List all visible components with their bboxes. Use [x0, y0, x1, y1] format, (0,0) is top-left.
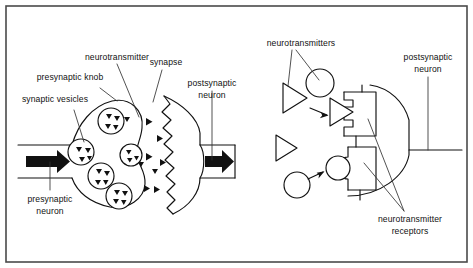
label-synaptic-vesicles: synaptic vesicles	[22, 94, 88, 104]
label-postsynaptic-neuron-line2: neuron	[198, 90, 225, 100]
left-panel-group: neurotransmitter presynaptic knob synapt…	[18, 52, 237, 216]
free-circle-neurotransmitter	[284, 172, 310, 198]
label-neurotransmitter: neurotransmitter	[85, 52, 149, 62]
leader-synaptic-vesicles	[74, 110, 84, 142]
synaptic-transmission-figure: neurotransmitter presynaptic knob synapt…	[0, 0, 473, 268]
postsynaptic-impulse-arrow	[205, 150, 234, 173]
leader-presynaptic-knob	[100, 88, 117, 101]
figure-canvas: neurotransmitter presynaptic knob synapt…	[0, 0, 473, 268]
right-panel-group: neurotransmitters postsynaptic neuron ne…	[267, 38, 462, 236]
synaptic-vesicle	[88, 163, 114, 189]
leader-receptors-upper	[368, 119, 404, 211]
bound-circle-neurotransmitter	[326, 156, 350, 180]
postsynaptic-neck	[200, 145, 204, 178]
leader-synapse	[153, 70, 162, 102]
synaptic-vesicle	[68, 139, 94, 165]
synaptic-vesicle	[98, 108, 124, 134]
leader-receptors-lower	[364, 163, 404, 211]
synaptic-vesicle	[106, 183, 132, 209]
leader-neurotransmitters-circle	[296, 50, 319, 80]
binding-arrow	[308, 171, 325, 179]
leader-neurotransmitters-triangle	[288, 50, 292, 86]
leader-neurotransmitter	[117, 64, 139, 117]
label-neurotransmitters: neurotransmitters	[267, 38, 336, 48]
label-presynaptic-neuron-line2: neuron	[36, 206, 63, 216]
postsynaptic-membrane-upper	[370, 85, 462, 150]
label-synapse: synapse	[150, 57, 183, 67]
label-postsynaptic-neuron-line1: postsynaptic	[188, 78, 238, 88]
receptor-site-circle-body	[348, 147, 376, 190]
label-postsynaptic-neuron-right-line2: neuron	[414, 64, 441, 74]
synaptic-cleft-membrane	[162, 96, 175, 214]
free-triangle-neurotransmitter	[276, 135, 297, 161]
label-postsynaptic-neuron-right-line1: postsynaptic	[404, 52, 454, 62]
label-neurotransmitter-receptors-line2: receptors	[392, 226, 429, 236]
bound-triangle-neurotransmitter	[330, 98, 353, 126]
postsynaptic-bulb-bottom	[173, 178, 235, 214]
free-triangle-neurotransmitter	[283, 83, 307, 113]
label-presynaptic-neuron-line1: presynaptic	[27, 194, 73, 204]
postsynaptic-membrane-lower	[348, 150, 409, 196]
presynaptic-impulse-arrow	[26, 150, 70, 173]
postsynaptic-bulb-top	[164, 96, 235, 145]
free-circle-neurotransmitter	[306, 69, 334, 97]
label-neurotransmitter-receptors-line1: neurotransmitter	[378, 214, 442, 224]
label-presynaptic-knob: presynaptic knob	[37, 72, 104, 82]
binding-arrow	[310, 108, 329, 118]
